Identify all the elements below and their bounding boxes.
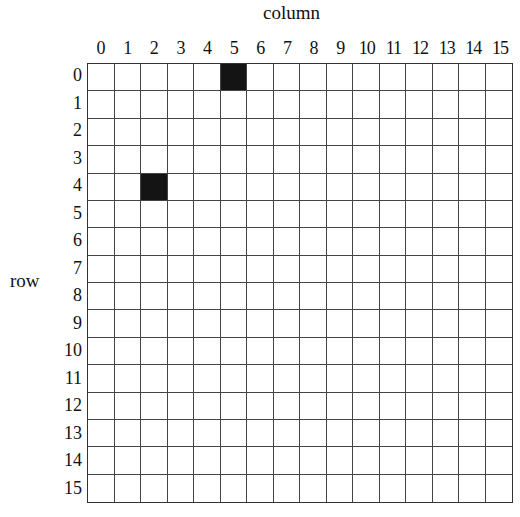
grid-cell <box>221 447 248 474</box>
grid-cell <box>88 256 115 283</box>
grid-cell <box>300 283 327 310</box>
grid-cell <box>353 338 380 365</box>
grid-cell <box>380 201 407 228</box>
row-label: 10 <box>52 340 82 361</box>
grid-cell <box>247 228 274 255</box>
grid-cell <box>221 256 248 283</box>
grid-cell <box>459 447 486 474</box>
grid-cell <box>406 365 433 392</box>
grid-cell <box>274 174 301 201</box>
grid-cell <box>380 283 407 310</box>
grid-cell <box>380 146 407 173</box>
column-label: 10 <box>353 38 380 59</box>
grid-cell <box>327 365 354 392</box>
grid-cell <box>247 447 274 474</box>
grid-cell <box>221 283 248 310</box>
grid-cell <box>221 475 248 502</box>
grid-cell <box>380 119 407 146</box>
grid-cell <box>88 310 115 337</box>
grid-cell <box>380 64 407 91</box>
grid-cell <box>168 256 195 283</box>
grid-cell <box>115 475 142 502</box>
column-label: 15 <box>486 38 513 59</box>
grid-cell <box>380 228 407 255</box>
grid-cell <box>327 283 354 310</box>
grid-cell <box>300 420 327 447</box>
row-label: 3 <box>52 148 82 169</box>
grid-cell <box>141 365 168 392</box>
grid-cell <box>221 228 248 255</box>
grid-cell <box>353 64 380 91</box>
grid-cell <box>247 283 274 310</box>
grid-cell <box>168 365 195 392</box>
grid-cell <box>115 174 142 201</box>
grid-cell <box>194 228 221 255</box>
row-label: 1 <box>52 93 82 114</box>
grid-cell <box>274 228 301 255</box>
grid-cell <box>274 365 301 392</box>
grid-cell <box>88 475 115 502</box>
column-label: 7 <box>273 38 300 59</box>
grid-cell <box>327 338 354 365</box>
grid-cell <box>459 475 486 502</box>
grid-cell <box>380 256 407 283</box>
column-label: 12 <box>407 38 434 59</box>
grid-cell <box>380 310 407 337</box>
grid-cell <box>300 174 327 201</box>
grid-cell <box>327 201 354 228</box>
grid-cell <box>433 146 460 173</box>
column-label: 5 <box>220 38 247 59</box>
grid-cell <box>380 393 407 420</box>
grid-cell <box>221 91 248 118</box>
grid-cell <box>327 64 354 91</box>
grid-cell <box>168 475 195 502</box>
grid-cell <box>327 119 354 146</box>
grid-cell <box>274 146 301 173</box>
grid-cell <box>433 91 460 118</box>
column-label: 9 <box>327 38 354 59</box>
grid-cell <box>327 393 354 420</box>
grid-cell <box>221 338 248 365</box>
grid-cell <box>486 64 513 91</box>
grid-cell <box>406 201 433 228</box>
grid-cell <box>406 64 433 91</box>
grid-cell <box>274 310 301 337</box>
grid-cell <box>194 174 221 201</box>
grid-cell <box>88 64 115 91</box>
grid-cell <box>115 91 142 118</box>
grid-cell <box>168 283 195 310</box>
row-label: 14 <box>52 450 82 471</box>
grid-cell <box>406 475 433 502</box>
column-label: 4 <box>194 38 221 59</box>
grid-cell <box>300 91 327 118</box>
grid-cell <box>247 119 274 146</box>
grid-cell <box>115 146 142 173</box>
grid-cell <box>115 228 142 255</box>
grid <box>87 63 513 503</box>
grid-cell <box>433 256 460 283</box>
grid-cell <box>327 91 354 118</box>
row-axis-title: row <box>10 270 40 292</box>
grid-cell <box>168 201 195 228</box>
grid-cell <box>459 91 486 118</box>
grid-cell <box>433 119 460 146</box>
row-label: 9 <box>52 313 82 334</box>
row-label: 2 <box>52 120 82 141</box>
grid-cell <box>459 174 486 201</box>
grid-cell <box>300 256 327 283</box>
grid-cell <box>141 283 168 310</box>
grid-cell <box>247 475 274 502</box>
grid-cell <box>486 283 513 310</box>
grid-cell <box>141 256 168 283</box>
grid-cell <box>115 310 142 337</box>
grid-cell <box>433 228 460 255</box>
grid-cell <box>141 338 168 365</box>
grid-cell <box>327 420 354 447</box>
grid-cell <box>88 119 115 146</box>
grid-cell <box>433 338 460 365</box>
grid-cell <box>88 201 115 228</box>
grid-cell <box>88 447 115 474</box>
column-label: 3 <box>167 38 194 59</box>
grid-cell <box>380 420 407 447</box>
grid-cell <box>486 338 513 365</box>
